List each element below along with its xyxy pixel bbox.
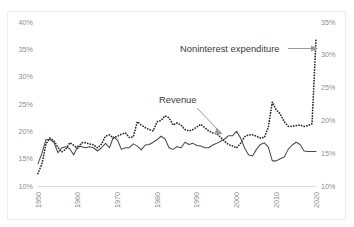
- left-tick-30%: 30%: [19, 72, 34, 81]
- x-tick-2000: 2000: [232, 192, 241, 208]
- arrow-head-revenue: [215, 128, 223, 135]
- series-noninterest-expenditure: [38, 39, 316, 173]
- right-axis-tick-labels: 10%15%20%25%30%35%: [321, 18, 336, 191]
- fiscal-trends-chart: 10%15%20%25%30%35%40% 10%15%20%25%30%35%…: [0, 0, 354, 227]
- right-tick-10%: 10%: [321, 182, 336, 191]
- left-tick-15%: 15%: [19, 154, 34, 163]
- left-tick-40%: 40%: [19, 18, 34, 27]
- x-tick-2020: 2020: [312, 192, 321, 208]
- annotation-revenue: Revenue: [159, 94, 223, 135]
- left-tick-20%: 20%: [19, 127, 34, 136]
- annotation-label-revenue: Revenue: [159, 94, 197, 105]
- right-tick-35%: 35%: [321, 18, 336, 27]
- x-axis-tick-labels: 19501960197019801990200020102020: [34, 192, 321, 208]
- x-tick-2010: 2010: [272, 192, 281, 208]
- left-tick-10%: 10%: [19, 182, 34, 191]
- x-tick-1990: 1990: [192, 192, 201, 208]
- arrow-head-noninterest: [311, 46, 318, 52]
- x-tick-1980: 1980: [153, 192, 162, 208]
- right-tick-30%: 30%: [321, 50, 336, 59]
- annotation-label-noninterest: Noninterest expenditure: [180, 43, 280, 54]
- right-tick-15%: 15%: [321, 149, 336, 158]
- x-tick-1960: 1960: [73, 192, 82, 208]
- series-revenue: [38, 131, 316, 163]
- left-tick-35%: 35%: [19, 45, 34, 54]
- annotation-noninterest-expenditure: Noninterest expenditure: [180, 43, 318, 54]
- left-tick-25%: 25%: [19, 100, 34, 109]
- x-tick-1950: 1950: [34, 192, 43, 208]
- left-axis-tick-labels: 10%15%20%25%30%35%40%: [19, 18, 34, 191]
- x-tick-1970: 1970: [113, 192, 122, 208]
- right-tick-25%: 25%: [321, 83, 336, 92]
- arrow-line-revenue: [197, 108, 219, 131]
- right-tick-20%: 20%: [321, 116, 336, 125]
